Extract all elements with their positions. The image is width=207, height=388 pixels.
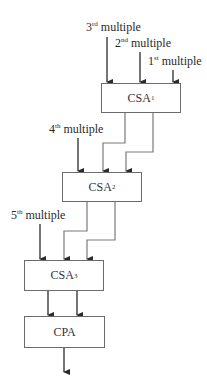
label-5th-multiple: 5th multiple [11, 208, 65, 222]
csa3-to-cpa-connectors [48, 290, 77, 315]
csa2-to-csa3-connectors [64, 201, 115, 259]
cpa-block: CPA [24, 316, 105, 348]
label-4th-multiple: 4th multiple [49, 122, 103, 136]
csa1-to-csa2-connectors [103, 112, 153, 171]
csa2-block: CSA2 [62, 172, 142, 202]
label-2nd-multiple: 2nd multiple [115, 36, 171, 50]
csa-tree-diagram: 3rd multiple 2nd multiple 1st multiple 4… [0, 0, 207, 388]
csa3-block: CSA3 [24, 260, 104, 291]
label-1st-multiple: 1st multiple [148, 54, 202, 68]
label-3rd-multiple: 3rd multiple [86, 20, 141, 34]
csa1-block: CSA1 [101, 83, 181, 113]
